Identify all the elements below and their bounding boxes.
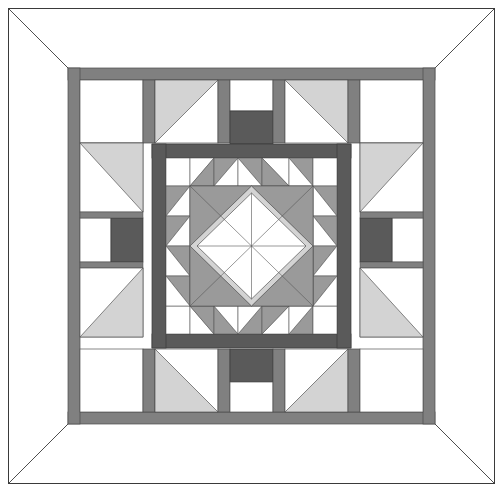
sash-bottom-3	[273, 349, 285, 412]
bottom-center-dark-rect	[230, 349, 273, 382]
sash-bottom-4	[348, 349, 360, 412]
outer-ring-bottom	[80, 349, 423, 412]
sash-top-2	[218, 80, 230, 143]
inner-ring-left-strip	[166, 186, 190, 306]
inner-bottom-sq-7	[313, 306, 337, 334]
mid-right-dark-rect	[360, 218, 392, 262]
inner-frame-left	[152, 144, 166, 348]
sash-bottom-2	[218, 349, 230, 412]
inner-ring-bottom-strip	[166, 306, 337, 334]
mid-right-white	[392, 218, 423, 262]
outer-ring-top	[80, 80, 423, 144]
sashing-left	[68, 68, 80, 424]
mid-left-sash-top	[80, 212, 143, 218]
mid-left-white	[80, 218, 111, 262]
inner-frame-bottom	[152, 334, 351, 348]
inner-frame-right	[337, 144, 351, 348]
sash-bottom-1	[143, 349, 155, 412]
sash-top-4	[348, 80, 360, 143]
inner-bottom-sq-1	[166, 306, 190, 334]
quilt-field	[68, 68, 435, 424]
inner-ring-top-strip	[166, 158, 337, 186]
inner-top-sq-1	[166, 158, 190, 186]
sash-top-1	[143, 80, 155, 143]
mid-right-sash-top	[360, 212, 423, 218]
corner-square-top-right	[360, 80, 423, 143]
inner-frame-top	[152, 144, 351, 158]
sashing-top	[68, 68, 435, 80]
sashing-bottom	[68, 412, 435, 424]
top-center-dark-rect	[230, 111, 273, 144]
corner-square-bottom-left	[80, 349, 143, 412]
bottom-center-white	[230, 382, 273, 412]
mid-left-dark-rect	[111, 218, 143, 262]
mid-left-sash-bottom	[80, 262, 143, 268]
inner-ring-right-strip	[313, 186, 337, 306]
quilt-diagram: Medallion Quilt Block Diagram	[0, 0, 503, 492]
mid-right-sash-bottom	[360, 262, 423, 268]
sash-top-3	[273, 80, 285, 143]
top-center-white	[230, 80, 273, 111]
corner-square-bottom-right	[360, 349, 423, 412]
sashing-right	[423, 68, 435, 424]
center-square-in-square	[190, 186, 313, 306]
inner-top-sq-7	[313, 158, 337, 186]
corner-square-top-left	[80, 80, 143, 143]
